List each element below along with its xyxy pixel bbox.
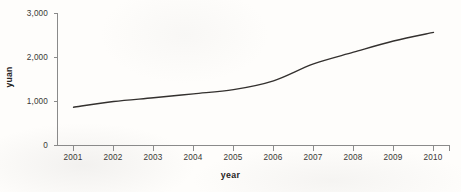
x-tick-label-2001: 2001 xyxy=(53,153,93,162)
x-tick-label-2008: 2008 xyxy=(333,153,373,162)
y-axis-title: yuan xyxy=(4,55,14,99)
y-tick-label-2000: 2,000 xyxy=(8,53,48,62)
x-tick-label-2003: 2003 xyxy=(133,153,173,162)
y-tick-label-0: 0 xyxy=(8,141,48,150)
x-tick-label-2002: 2002 xyxy=(93,153,133,162)
x-tick-marks xyxy=(74,146,450,151)
x-tick-label-2009: 2009 xyxy=(373,153,413,162)
data-series-line xyxy=(74,32,434,107)
x-tick-label-2005: 2005 xyxy=(213,153,253,162)
x-tick-label-2007: 2007 xyxy=(293,153,333,162)
x-tick-label-2010: 2010 xyxy=(413,153,453,162)
plot-area xyxy=(0,0,461,192)
x-tick-label-2004: 2004 xyxy=(173,153,213,162)
line-chart: 3,000 2,000 1,000 0 2001 2002 2003 2004 … xyxy=(0,0,461,192)
x-tick-label-2006: 2006 xyxy=(253,153,293,162)
y-tick-label-3000: 3,000 xyxy=(8,9,48,18)
y-tick-marks xyxy=(54,14,58,146)
x-axis-title: year xyxy=(0,170,461,180)
y-tick-label-1000: 1,000 xyxy=(8,97,48,106)
